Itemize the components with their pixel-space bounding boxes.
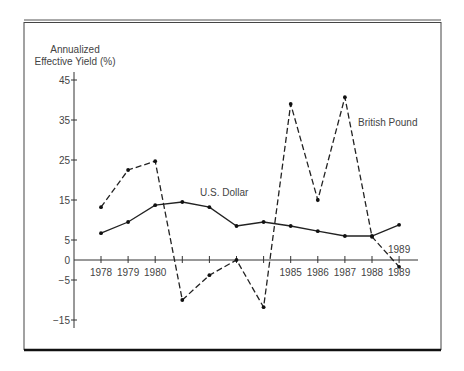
y-tick-label: 35 xyxy=(59,115,71,126)
x-tick-label: 1978 xyxy=(90,267,113,278)
data-point xyxy=(153,159,157,163)
x-tick-label: 1986 xyxy=(307,267,330,278)
data-point xyxy=(208,273,212,277)
y-axis-label-line1: Annualized xyxy=(50,44,99,55)
data-point xyxy=(343,95,347,99)
y-tick-label: 15 xyxy=(59,195,71,206)
usd-series-label: U.S. Dollar xyxy=(200,187,249,198)
frame xyxy=(24,23,441,350)
data-point xyxy=(289,224,293,228)
data-point xyxy=(180,200,184,204)
data-point xyxy=(370,235,374,239)
data-point xyxy=(235,258,239,262)
x-tick-label: 1988 xyxy=(361,267,384,278)
y-tick-label: 0 xyxy=(64,255,70,266)
data-point xyxy=(397,223,401,227)
data-point xyxy=(316,229,320,233)
data-point xyxy=(397,265,401,269)
usd-line xyxy=(101,202,399,236)
yield-chart: Annualized Effective Yield (%) 453525155… xyxy=(0,0,464,371)
data-point xyxy=(235,224,239,228)
x-tick-label: 1985 xyxy=(280,267,303,278)
axes: 4535251550−5−151978197919801985198619871… xyxy=(53,72,418,328)
data-point xyxy=(153,203,157,207)
x-tick-label: 1987 xyxy=(334,267,357,278)
x-tick-label-1989: 1989 xyxy=(388,244,411,255)
y-tick-label: 45 xyxy=(59,75,71,86)
y-axis-label-line2: Effective Yield (%) xyxy=(35,56,116,67)
data-point xyxy=(180,298,184,302)
y-tick-label: 5 xyxy=(64,235,70,246)
data-point xyxy=(262,305,266,309)
data-point xyxy=(126,220,130,224)
y-tick-label: 25 xyxy=(59,155,71,166)
data-point xyxy=(343,234,347,238)
data-point xyxy=(99,231,103,235)
data-point xyxy=(316,198,320,202)
data-point xyxy=(208,205,212,209)
data-point xyxy=(126,168,130,172)
y-tick-label: −5 xyxy=(59,275,71,286)
y-tick-label: −15 xyxy=(53,315,70,326)
x-tick-label: 1980 xyxy=(144,267,167,278)
data-point xyxy=(289,102,293,106)
data-point xyxy=(99,205,103,209)
gbp-series-label: British Pound xyxy=(358,117,417,128)
x-tick-label: 1979 xyxy=(117,267,140,278)
data-point xyxy=(262,220,266,224)
